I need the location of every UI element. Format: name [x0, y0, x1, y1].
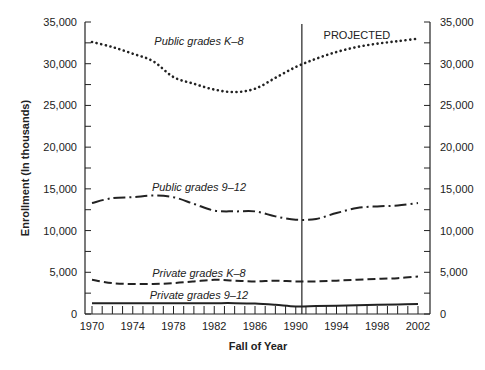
y-tick-label-right: 0	[440, 308, 446, 320]
y-tick-label-left: 15,000	[43, 183, 77, 195]
y-tick-label-right: 30,000	[440, 58, 474, 70]
series-line-private-grades-k-8	[92, 276, 418, 284]
series-layer	[92, 39, 418, 307]
x-tick-label: 1978	[161, 320, 185, 332]
y-tick-label-right: 5,000	[440, 266, 468, 278]
x-tick-label: 1990	[284, 320, 308, 332]
y-tick-label-left: 20,000	[43, 141, 77, 153]
y-tick-label-left: 5,000	[49, 266, 77, 278]
enrollment-chart: 005,0005,00010,00010,00015,00015,00020,0…	[0, 0, 485, 370]
x-tick-label: 1986	[243, 320, 267, 332]
series-line-public-grades-9-12	[92, 196, 418, 220]
x-tick-label: 2002	[406, 320, 430, 332]
x-axis-title: Fall of Year	[229, 340, 288, 352]
x-tick-label: 1982	[202, 320, 226, 332]
y-axis-title: Enrollment (In thousands)	[19, 100, 31, 237]
y-tick-label-left: 0	[71, 308, 77, 320]
y-tick-label-left: 25,000	[43, 99, 77, 111]
x-tick-label: 1998	[365, 320, 389, 332]
y-tick-label-left: 35,000	[43, 16, 77, 28]
series-label-private-grades-k-8: Private grades K–8	[152, 267, 246, 279]
y-tick-label-right: 20,000	[440, 141, 474, 153]
y-tick-label-left: 10,000	[43, 225, 77, 237]
x-tick-label: 1974	[121, 320, 145, 332]
y-tick-label-right: 15,000	[440, 183, 474, 195]
x-tick-label: 1970	[80, 320, 104, 332]
y-tick-label-left: 30,000	[43, 58, 77, 70]
y-tick-label-right: 35,000	[440, 16, 474, 28]
y-tick-label-right: 10,000	[440, 225, 474, 237]
projected-annotation: PROJECTED	[324, 29, 391, 41]
series-label-public-grades-k-8: Public grades K–8	[154, 35, 244, 47]
series-label-private-grades-9-12: Private grades 9–12	[150, 289, 248, 301]
axes: 005,0005,00010,00010,00015,00015,00020,0…	[43, 16, 473, 332]
series-line-public-grades-k-8	[92, 39, 418, 92]
y-tick-label-right: 25,000	[440, 99, 474, 111]
series-label-public-grades-9-12: Public grades 9–12	[152, 181, 246, 193]
x-tick-label: 1994	[324, 320, 348, 332]
labels-layer: PROJECTEDPublic grades K–8Public grades …	[150, 29, 390, 302]
